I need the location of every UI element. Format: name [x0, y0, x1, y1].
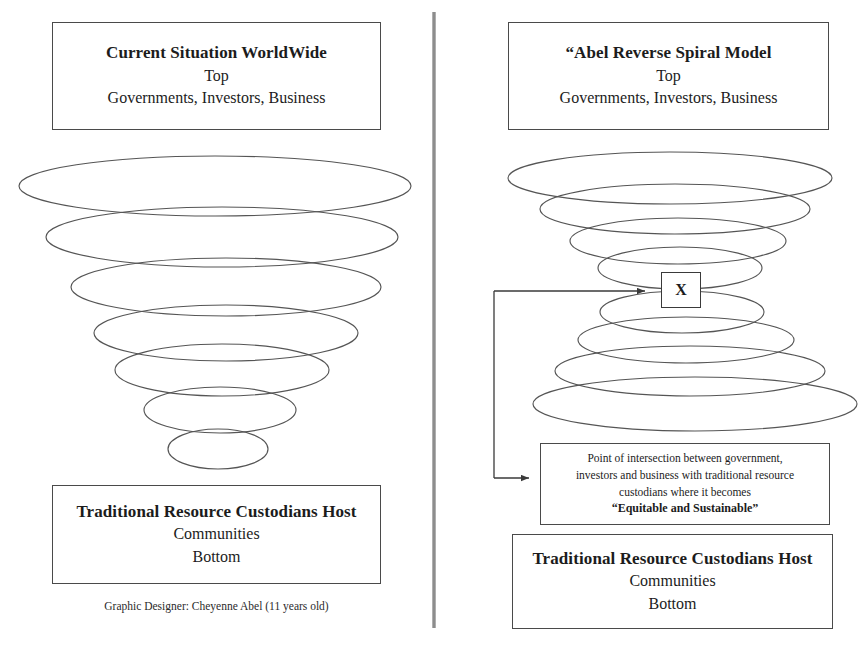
- right-spiral-ring: [570, 218, 786, 264]
- right-bottom-box: Traditional Resource Custodians Host Com…: [512, 534, 833, 629]
- left-bottom-heading: Traditional Resource Custodians Host: [76, 501, 356, 523]
- right-title-heading: “Abel Reverse Spiral Model: [565, 42, 771, 64]
- graphic-designer-credit: Graphic Designer: Cheyenne Abel (11 year…: [52, 600, 381, 612]
- right-title-line3: Governments, Investors, Business: [560, 87, 778, 110]
- right-title-box: “Abel Reverse Spiral Model Top Governmen…: [508, 22, 829, 130]
- diagram-canvas: Current Situation WorldWide Top Governme…: [0, 0, 861, 661]
- intersection-marker-label: X: [675, 279, 687, 300]
- note-line-1: Point of intersection between government…: [587, 450, 782, 467]
- left-spiral-ring: [144, 387, 296, 433]
- left-spiral-ring: [94, 305, 358, 361]
- right-bottom-line3: Bottom: [648, 593, 696, 616]
- left-title-heading: Current Situation WorldWide: [106, 42, 327, 64]
- right-bottom-heading: Traditional Resource Custodians Host: [532, 548, 812, 570]
- left-title-line3: Governments, Investors, Business: [108, 87, 326, 110]
- right-spiral-ring: [540, 184, 810, 234]
- left-bottom-line2: Communities: [173, 523, 259, 546]
- right-spiral-ring: [555, 346, 825, 396]
- left-title-box: Current Situation WorldWide Top Governme…: [52, 22, 381, 130]
- left-bottom-box: Traditional Resource Custodians Host Com…: [52, 485, 381, 584]
- right-spiral-ring: [578, 317, 794, 363]
- note-emphasis: “Equitable and Sustainable”: [612, 500, 759, 517]
- right-spiral-ring: [533, 377, 857, 431]
- left-spiral-funnel: [19, 156, 411, 469]
- left-spiral-ring: [115, 344, 329, 396]
- note-line-3: custodians where it becomes: [619, 484, 751, 501]
- note-line-2: investors and business with traditional …: [576, 467, 794, 484]
- left-bottom-line3: Bottom: [192, 546, 240, 569]
- right-bottom-line2: Communities: [629, 570, 715, 593]
- right-spiral-ring: [508, 152, 832, 204]
- left-spiral-ring: [168, 429, 268, 469]
- left-title-line2: Top: [204, 65, 229, 88]
- right-title-line2: Top: [656, 65, 681, 88]
- intersection-marker-box: X: [661, 272, 701, 308]
- intersection-note-box: Point of intersection between government…: [540, 443, 830, 525]
